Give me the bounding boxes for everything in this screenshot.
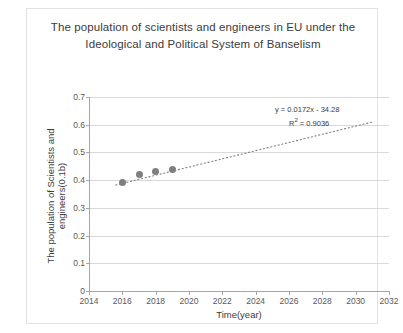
trendline-equation-annotation: y = 0.0172x - 34.28 R2 = 0.9036	[275, 105, 339, 129]
x-tick-mark	[322, 292, 323, 295]
r2-exponent: 2	[294, 117, 297, 123]
y-axis-line	[89, 97, 90, 292]
trendline-r2: R2 = 0.9036	[275, 115, 339, 129]
x-tick-mark	[389, 292, 390, 295]
x-tick-label: 2022	[205, 296, 239, 306]
data-point	[136, 171, 143, 178]
x-tick-label: 2014	[72, 296, 106, 306]
x-tick-mark	[356, 292, 357, 295]
y-axis-title: The population of Scientists and enginee…	[45, 98, 67, 294]
x-tick-label: 2032	[372, 296, 403, 306]
x-axis-line	[89, 291, 390, 292]
x-tick-mark	[256, 292, 257, 295]
x-tick-mark	[89, 292, 90, 295]
trendline-equation: y = 0.0172x - 34.28	[275, 105, 339, 115]
x-tick-label: 2024	[239, 296, 273, 306]
x-tick-label: 2030	[339, 296, 373, 306]
x-tick-label: 2020	[172, 296, 206, 306]
x-axis-title: Time(year)	[89, 309, 389, 320]
x-tick-label: 2026	[272, 296, 306, 306]
x-tick-label: 2018	[139, 296, 173, 306]
x-tick-mark	[189, 292, 190, 295]
plot-area	[89, 97, 389, 291]
x-tick-label: 2028	[305, 296, 339, 306]
x-tick-mark	[222, 292, 223, 295]
x-tick-label: 2016	[105, 296, 139, 306]
trendline	[89, 97, 389, 291]
chart-title: The population of scientists and enginee…	[49, 19, 357, 52]
chart-frame: The population of scientists and enginee…	[26, 8, 378, 324]
x-tick-mark	[122, 292, 123, 295]
x-tick-mark	[156, 292, 157, 295]
x-tick-mark	[289, 292, 290, 295]
data-point	[169, 166, 176, 173]
r2-value: = 0.9036	[300, 119, 329, 128]
